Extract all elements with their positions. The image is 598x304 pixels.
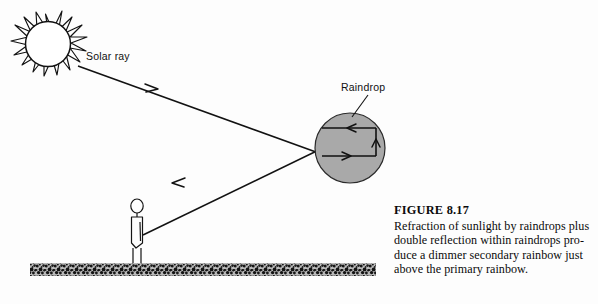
figure-caption: FIGURE 8.17 Refraction of sunlight by ra…	[394, 203, 594, 277]
incoming-solar-ray	[78, 66, 327, 156]
ground-texture-icon	[30, 263, 376, 276]
caption-line-1: Refraction of sunlight by raindrops plus	[394, 219, 594, 233]
caption-title: FIGURE 8.17	[394, 203, 594, 218]
caption-line-3: duce a dimmer secondary rainbow just	[394, 248, 594, 262]
observer-arm	[140, 222, 141, 241]
outgoing-ray-line	[143, 146, 327, 235]
raindrop-circle-icon	[315, 95, 385, 183]
observer-person-icon	[130, 199, 145, 269]
incoming-ray-line	[78, 66, 327, 156]
observer-head	[131, 199, 143, 213]
caption-line-4: above the primary rainbow.	[394, 262, 594, 276]
raindrop-label: Raindrop	[341, 81, 385, 93]
arrow-left-down-icon	[172, 178, 185, 187]
solar-ray-label: Solar ray	[86, 50, 130, 62]
outgoing-ray-to-observer	[143, 146, 327, 235]
sun-icon	[11, 11, 87, 76]
sun-disc-icon	[26, 22, 71, 67]
raindrop-leader-line	[352, 95, 368, 117]
figure-page: Solar ray Raindrop FIGURE 8.17 Refractio…	[0, 0, 598, 304]
caption-line-2: double reflection within raindrops pro-	[394, 233, 594, 247]
ground-shade	[30, 263, 376, 276]
raindrop-body	[315, 113, 385, 183]
caption-body: Refraction of sunlight by raindrops plus…	[394, 219, 594, 277]
